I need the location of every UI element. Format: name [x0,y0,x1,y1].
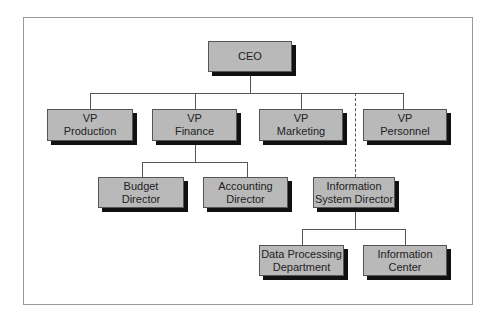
node-label-line2: Production [64,125,117,138]
node-label-line2: Finance [175,125,214,138]
node-data-processing: Data Processing Department [259,245,344,276]
node-label-line2: Personnel [380,125,430,138]
connector-ceo-down [250,72,251,93]
node-vp-finance: VP Finance [152,109,237,141]
connector-vp-production [90,93,91,109]
node-label-line1: Accounting [218,180,272,193]
node-label-line1: VP [294,112,309,125]
connector-finance-down [195,145,196,162]
connector-accounting [247,162,248,177]
connector-vp-personnel [403,93,404,109]
connector-vp-bus [90,93,404,94]
node-label: CEO [238,50,262,63]
connector-budget [142,162,143,177]
node-vp-production: VP Production [47,109,133,141]
node-budget-director: Budget Director [98,177,184,208]
node-ceo: CEO [208,41,292,72]
node-label-line1: Budget [124,180,159,193]
connector-info-system-bus [302,229,406,230]
node-label-line1: VP [83,112,98,125]
connector-vp-finance [195,93,196,109]
node-label-line1: VP [187,112,202,125]
connector-information-center [405,229,406,245]
connector-vp-marketing [301,93,302,109]
connector-data-processing [302,229,303,245]
node-accounting-director: Accounting Director [203,177,288,208]
node-label-line1: Data Processing [261,248,342,261]
node-label-line1: VP [398,112,413,125]
node-information-center: Information Center [363,245,447,276]
node-label-line2: Center [388,261,421,274]
dashed-connector-info-system [355,93,356,177]
node-vp-personnel: VP Personnel [363,109,447,141]
node-label-line2: Director [122,193,161,206]
node-info-system-director: Information System Director [313,177,395,208]
node-label-line1: Information [377,248,432,261]
node-label-line1: Information [326,180,381,193]
node-label-line2: System Director [315,193,393,206]
connector-finance-bus [142,162,248,163]
node-label-line2: Director [226,193,265,206]
node-label-line2: Department [273,261,330,274]
connector-info-system-down [355,211,356,229]
node-vp-marketing: VP Marketing [259,109,343,141]
node-label-line2: Marketing [277,125,325,138]
